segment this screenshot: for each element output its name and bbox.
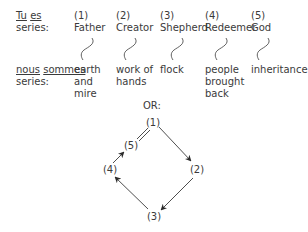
arrow-2-to-3 (161, 178, 193, 210)
squiggle-icon-2 (124, 38, 136, 60)
arrow-1-to-2 (159, 127, 191, 161)
squiggle-icon-4 (215, 38, 227, 60)
connectors-and-cycle: (1) (2) (3) (4) (5) (0, 0, 308, 232)
arrow-4-to-5 (113, 152, 124, 163)
squiggle-icon-3 (171, 38, 183, 60)
cycle-node-1: (1) (146, 117, 160, 128)
cycle-node-4: (4) (103, 164, 117, 175)
cycle-node-2: (2) (190, 164, 204, 175)
squiggle-icon-1 (81, 38, 93, 60)
cycle-node-5: (5) (124, 140, 138, 151)
cycle-nodes: (1) (2) (3) (4) (5) (103, 117, 204, 222)
cycle-node-3: (3) (147, 211, 161, 222)
squiggle-connectors (81, 38, 269, 60)
squiggle-icon-5 (257, 38, 269, 60)
arrow-3-to-4 (115, 177, 148, 209)
